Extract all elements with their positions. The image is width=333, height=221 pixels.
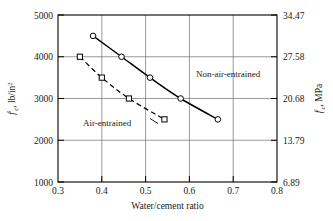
ytick-left-4: 1000 (34, 178, 53, 188)
data-point (99, 75, 104, 80)
y-left-title-unit: , lb/in (7, 85, 17, 107)
gridlines (58, 15, 277, 182)
ytick-right-3: 13.79 (283, 136, 305, 146)
data-point (77, 54, 82, 59)
xtick-3: 0.6 (183, 186, 195, 196)
x-axis-title: Water/cement ratio (131, 201, 204, 211)
ytick-right-4: 6.89 (283, 178, 300, 188)
data-point (162, 117, 167, 122)
x-axis-tick-labels: 0.3 0.4 0.5 0.6 0.7 0.8 (52, 186, 283, 196)
svg-text:f'c, lb/in2: f'c, lb/in2 (6, 82, 19, 115)
xtick-4: 0.7 (227, 186, 239, 196)
ytick-right-1: 27.58 (283, 52, 305, 62)
concrete-strength-vs-water-cement-ratio-chart: 5000 4000 3000 2000 1000 34.47 27.58 20.… (0, 0, 333, 221)
leader-line-air-entrained (150, 119, 158, 124)
ytick-left-1: 4000 (34, 52, 53, 62)
ytick-right-2: 20.68 (283, 94, 305, 104)
y-axis-left-title: f'c, lb/in2 (6, 82, 19, 115)
ytick-left-2: 3000 (34, 94, 53, 104)
ytick-right-0: 34.47 (283, 11, 305, 21)
chart-figure: 5000 4000 3000 2000 1000 34.47 27.58 20.… (0, 0, 333, 221)
svg-text:f'c, MPa: f'c, MPa (314, 83, 326, 113)
data-point (215, 117, 221, 123)
ytick-left-3: 2000 (34, 136, 53, 146)
data-point (178, 96, 184, 102)
y-axis-right-tick-labels: 34.47 27.58 20.68 13.79 6.89 (283, 11, 305, 188)
data-point (126, 96, 131, 101)
y-axis-left-tick-labels: 5000 4000 3000 2000 1000 (34, 11, 53, 188)
data-point (90, 33, 96, 39)
series-air-entrained (77, 54, 167, 122)
label-non-air-entrained: Non-air-entrained (196, 69, 261, 79)
y-axis-right-title: f'c, MPa (314, 83, 326, 113)
series-line-1 (80, 57, 165, 120)
xtick-2: 0.5 (140, 186, 152, 196)
xtick-1: 0.4 (96, 186, 108, 196)
y-right-title-unit: , MPa (314, 83, 324, 106)
xtick-5: 0.8 (271, 186, 283, 196)
ytick-left-0: 5000 (34, 11, 53, 21)
xtick-0: 0.3 (52, 186, 64, 196)
data-point (147, 75, 153, 81)
label-air-entrained: Air-entrained (83, 118, 132, 128)
y-left-title-sup: 2 (6, 82, 13, 86)
data-point (119, 54, 125, 60)
